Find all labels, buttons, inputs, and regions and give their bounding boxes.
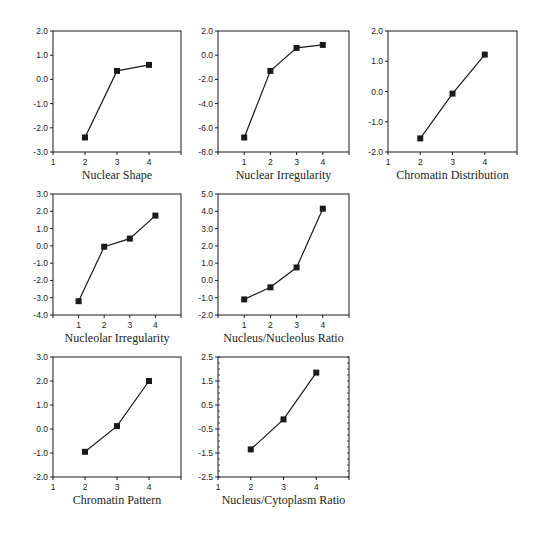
chart-panel-2: 2.00.0-2.0-4.0-6.0-8.01234Nuclear Irregu…: [198, 26, 349, 182]
x-tick-label: 4: [482, 157, 487, 167]
series-line: [251, 373, 316, 450]
x-tick-label: 3: [450, 157, 455, 167]
y-tick-label: -1.0: [368, 117, 383, 127]
y-tick-label: -2.0: [198, 74, 213, 84]
plot-frame: [218, 31, 349, 152]
chart-panel-5: 5.04.03.02.01.00.0-1.0-2.01234Nucleus/Nu…: [198, 189, 349, 345]
data-point-marker: [417, 135, 423, 141]
chart-panel-3: 2.01.00.0-1.0-2.01234Chromatin Distribut…: [368, 26, 517, 182]
data-point-marker: [152, 213, 158, 219]
y-tick-label: -1.0: [33, 99, 48, 109]
data-point-marker: [313, 370, 319, 376]
data-point-marker: [241, 134, 247, 140]
y-tick-label: 1.0: [36, 50, 48, 60]
x-tick-label: 1: [76, 320, 81, 330]
y-tick-label: 1.0: [36, 224, 48, 234]
series-line: [85, 381, 149, 452]
data-point-marker: [76, 298, 82, 304]
plot-frame: [218, 194, 349, 315]
y-tick-label: 0.0: [371, 87, 383, 97]
series-line: [244, 209, 323, 300]
y-tick-label: -0.5: [198, 424, 213, 434]
x-tick-label: 2: [83, 157, 88, 167]
y-tick-label: 0.5: [201, 400, 213, 410]
data-point-marker: [482, 52, 488, 58]
y-tick-label: -3.0: [33, 293, 48, 303]
plot-frame: [53, 194, 181, 315]
y-tick-label: 0.0: [36, 74, 48, 84]
data-point-marker: [82, 134, 88, 140]
data-point-marker: [294, 264, 300, 270]
y-tick-label: 3.0: [36, 189, 48, 199]
x-tick-label: 2: [83, 482, 88, 492]
data-point-marker: [281, 416, 287, 422]
y-tick-label: 3.0: [36, 352, 48, 362]
y-tick-label: 1.5: [201, 376, 213, 386]
data-point-marker: [320, 206, 326, 212]
x-tick-label: 2: [248, 482, 253, 492]
x-tick-label: 3: [115, 482, 120, 492]
y-tick-label: 0.0: [36, 241, 48, 251]
data-point-marker: [248, 446, 254, 452]
plot-frame: [53, 357, 181, 477]
x-tick-label: 4: [320, 157, 325, 167]
x-tick-label: 2: [418, 157, 423, 167]
data-point-marker: [146, 378, 152, 384]
y-tick-label: -8.0: [198, 147, 213, 157]
y-tick-label: -2.0: [33, 275, 48, 285]
y-tick-label: -1.0: [33, 258, 48, 268]
y-tick-label: 2.0: [201, 26, 213, 36]
y-tick-label: 2.0: [201, 241, 213, 251]
y-tick-label: -3.0: [33, 147, 48, 157]
y-tick-label: 0.0: [201, 50, 213, 60]
x-axis-label: Nucleus/Cytoplasm Ratio: [222, 493, 346, 507]
y-tick-label: 2.0: [371, 26, 383, 36]
y-tick-label: -4.0: [198, 99, 213, 109]
y-tick-label: 0.0: [36, 424, 48, 434]
x-tick-label: 4: [314, 482, 319, 492]
y-tick-label: 5.0: [201, 189, 213, 199]
data-point-marker: [127, 236, 133, 242]
x-tick-label: 2: [268, 157, 273, 167]
figure-grid: 2.01.00.0-1.0-2.0-3.01234Nuclear Shape2.…: [0, 0, 546, 533]
y-tick-label: 1.0: [371, 56, 383, 66]
data-point-marker: [146, 62, 152, 68]
plot-frame: [53, 31, 181, 152]
chart-canvas: 2.01.00.0-1.0-2.0-3.01234Nuclear Shape2.…: [0, 0, 546, 533]
chart-panel-7: 2.51.50.5-0.5-1.5-2.51234Nucleus/Cytopla…: [198, 352, 349, 507]
data-point-marker: [320, 42, 326, 48]
y-tick-label: -2.0: [198, 310, 213, 320]
y-tick-label: -2.5: [198, 472, 213, 482]
y-tick-label: -2.0: [33, 472, 48, 482]
data-point-marker: [294, 45, 300, 51]
y-tick-label: 2.0: [36, 376, 48, 386]
x-tick-label: 2: [268, 320, 273, 330]
x-axis-label: Nucleus/Nucleolus Ratio: [223, 331, 343, 345]
x-tick-label: 4: [147, 157, 152, 167]
x-axis-label: Chromatin Pattern: [73, 493, 161, 507]
chart-panel-6: 3.02.01.00.0-1.0-2.01234Chromatin Patter…: [33, 352, 181, 507]
x-tick-label: 4: [320, 320, 325, 330]
x-tick-label: 1: [386, 157, 391, 167]
x-tick-label: 3: [127, 320, 132, 330]
data-point-marker: [450, 91, 456, 97]
x-tick-label: 1: [51, 482, 56, 492]
x-axis-label: Nuclear Shape: [82, 168, 152, 182]
y-tick-label: -1.5: [198, 448, 213, 458]
chart-panel-1: 2.01.00.0-1.0-2.0-3.01234Nuclear Shape: [33, 26, 181, 182]
x-tick-label: 3: [281, 482, 286, 492]
x-tick-label: 1: [242, 157, 247, 167]
y-tick-label: -2.0: [33, 123, 48, 133]
data-point-marker: [101, 244, 107, 250]
y-tick-label: 0.0: [201, 275, 213, 285]
data-point-marker: [241, 296, 247, 302]
data-point-marker: [267, 68, 273, 74]
x-tick-label: 2: [102, 320, 107, 330]
data-point-marker: [267, 284, 273, 290]
y-tick-label: 3.0: [201, 224, 213, 234]
x-tick-label: 1: [51, 157, 56, 167]
data-point-marker: [82, 449, 88, 455]
y-tick-label: 4.0: [201, 206, 213, 216]
y-tick-label: 1.0: [36, 400, 48, 410]
x-axis-label: Nucleolar Irregularity: [65, 331, 170, 345]
